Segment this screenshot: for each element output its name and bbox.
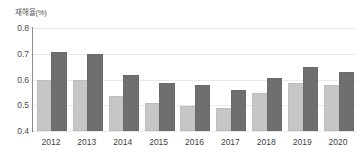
bar-series-a-2015 [145,103,161,131]
bar-series-a-2018 [252,93,268,131]
bar-series-b-2014 [123,75,139,131]
bar-series-b-2013 [87,54,103,131]
x-axis-tick-label: 2018 [257,137,276,147]
bar-group [177,28,213,131]
bar-series-b-2019 [303,67,319,131]
bar-series-a-2020 [324,85,340,131]
bar-series-b-2017 [231,90,247,131]
x-axis-tick-label: 2014 [113,137,132,147]
y-axis-tick-label: 0.5 [5,100,29,110]
bar-group [105,28,141,131]
x-axis-tick-label: 2016 [185,137,204,147]
bar-group [284,28,320,131]
x-axis-tick-label: 2020 [329,137,348,147]
bar-chart: 재해율(%) 0.40.50.60.70.8201220132014201520… [0,0,364,167]
bar-series-b-2016 [195,85,211,131]
bar-series-b-2018 [267,78,283,132]
bar-group [248,28,284,131]
x-axis-tick-label: 2019 [293,137,312,147]
bar-series-a-2012 [37,80,53,131]
x-axis-tick-label: 2013 [77,137,96,147]
bar-series-a-2016 [180,106,196,131]
y-axis-tick-label: 0.4 [5,126,29,136]
y-gridline [33,131,356,132]
bar-series-a-2014 [109,96,125,131]
bar-group [141,28,177,131]
bar-group [212,28,248,131]
x-axis-tick-label: 2012 [41,137,60,147]
y-axis-tick-label: 0.7 [5,49,29,59]
bar-series-a-2017 [216,108,232,131]
bar-series-b-2020 [339,72,355,131]
bar-series-b-2015 [159,83,175,131]
y-axis-tick-label: 0.6 [5,75,29,85]
y-axis-tick-label: 0.8 [5,23,29,33]
bar-series-a-2013 [73,80,89,131]
plot-area [33,28,356,131]
x-axis-tick-label: 2015 [149,137,168,147]
bar-group [69,28,105,131]
bar-series-a-2019 [288,83,304,131]
bar-group [33,28,69,131]
bar-series-b-2012 [51,52,67,131]
y-axis-unit-label: 재해율(%) [15,6,46,17]
bar-group [320,28,356,131]
x-axis-tick-label: 2017 [221,137,240,147]
